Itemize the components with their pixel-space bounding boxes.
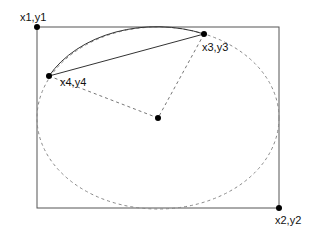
point-x4y4-dot [46, 73, 52, 79]
solid-arc [49, 27, 204, 76]
label-x4y4: x4,y4 [60, 76, 86, 88]
label-x2y2: x2,y2 [275, 214, 301, 226]
chord-line [49, 34, 204, 76]
point-x3y3-dot [201, 31, 207, 37]
radius-line-end [158, 34, 204, 118]
arc-diagram: x1,y1 x2,y2 x3,y3 x4,y4 [0, 0, 311, 235]
center-dot [155, 115, 161, 121]
point-x2y2-dot [276, 205, 282, 211]
label-x3y3: x3,y3 [202, 41, 228, 53]
point-x1y1-dot [34, 24, 40, 30]
label-x1y1: x1,y1 [20, 11, 46, 23]
